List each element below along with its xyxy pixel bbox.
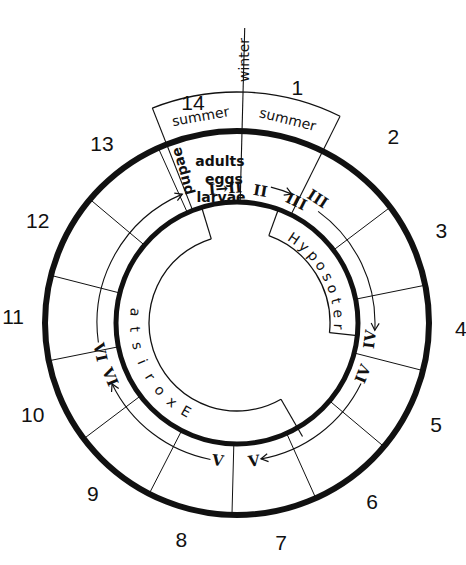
exorista-label-letter: a	[127, 307, 144, 317]
instar-label: III	[304, 186, 331, 213]
exorista-label-letter: E	[178, 402, 194, 420]
winter-label: winter	[236, 38, 252, 82]
instar-label: VI	[89, 340, 111, 363]
sector-divider	[287, 433, 316, 498]
sector-number-6: 6	[366, 490, 378, 513]
instar-label: IV	[360, 329, 380, 350]
instar-label: V	[210, 451, 225, 471]
life-cycle-diagram: 1234567891011121314summersummerwinteradu…	[0, 0, 466, 565]
sector-divider	[232, 444, 234, 515]
instar-label: V	[246, 451, 261, 470]
exorista-label-letter: r	[142, 370, 159, 384]
sector-number-4: 4	[455, 317, 466, 340]
exorista-label-letter: t	[127, 326, 143, 333]
stage-label-adults: adults	[195, 153, 244, 169]
exorista-band-end	[202, 207, 212, 239]
sector-divider	[149, 431, 181, 494]
sector-divider	[90, 199, 144, 245]
cycle-arrow	[271, 187, 292, 194]
sector-divider	[356, 285, 426, 299]
sector-divider	[84, 396, 141, 439]
exorista-band-arc	[149, 239, 281, 411]
sector-divider	[330, 401, 384, 447]
instar-label: VI	[98, 364, 122, 389]
sector-number-7: 7	[275, 531, 287, 554]
instar-label: I→II	[208, 178, 243, 199]
hyposoter-label-letter: o	[324, 282, 342, 295]
sector-number-1: 1	[291, 76, 303, 99]
sector-number-10: 10	[21, 403, 44, 426]
instar-label: IV	[351, 362, 375, 386]
cycle-arrow	[112, 384, 210, 460]
sector-divider	[334, 207, 391, 250]
hyposoter-label-letter: t	[328, 297, 345, 306]
sector-number-9: 9	[87, 482, 99, 505]
sector-number-5: 5	[430, 413, 442, 436]
sector-divider	[51, 275, 120, 293]
instar-label: II	[252, 181, 269, 201]
circular-phenology-diagram: 1234567891011121314summersummerwinteradu…	[0, 0, 466, 565]
inner-ring	[116, 202, 358, 444]
hyposoter-label-letter: e	[330, 309, 347, 319]
sector-number-11: 11	[2, 305, 24, 328]
exorista-label-letter: x	[164, 393, 181, 411]
hyposoter-band-end	[329, 333, 357, 336]
sector-number-13: 13	[90, 132, 113, 155]
sector-number-12: 12	[26, 209, 49, 232]
exorista-label-letter: o	[151, 382, 169, 399]
pupae-label: pupae	[168, 146, 196, 197]
exorista-label-letter: s	[129, 340, 146, 351]
exorista-label-letter: i	[134, 357, 150, 367]
hyposoter-band-end	[269, 209, 279, 235]
season-label-2: summer	[258, 104, 318, 134]
sector-number-8: 8	[176, 528, 188, 551]
sector-number-3: 3	[435, 219, 447, 242]
season-label-1: summer	[171, 103, 231, 129]
hyposoter-label-letter: r	[331, 323, 347, 330]
sector-number-2: 2	[388, 125, 400, 148]
hyposoter-label-letter: s	[319, 270, 337, 284]
